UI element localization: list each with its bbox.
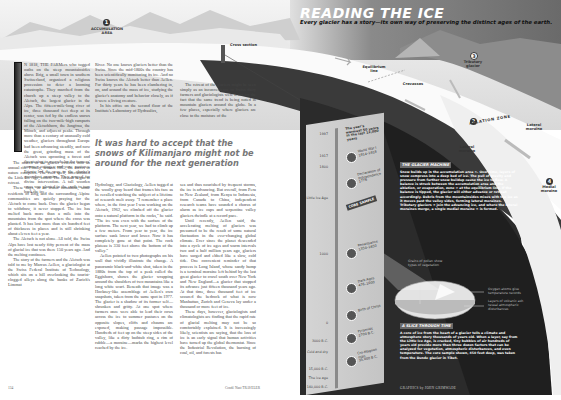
pull-quote: It was hard to accept that the snows of … (95, 138, 255, 168)
pyramid-icon (346, 333, 357, 344)
helmet-icon (346, 152, 357, 163)
article-column-2-top: River. No one knows glaciers better than… (95, 62, 173, 113)
skull-icon (346, 356, 357, 367)
glacier-machine-body: Snow builds up in the accumulation area … (400, 170, 518, 211)
article-column-2-bottom: Hydrology, and Glaciology, Aellen tugged… (95, 182, 173, 350)
tick-ice-age: The ice age (306, 376, 328, 380)
article-column-3-top: The retreat of the glaciers might be see… (180, 82, 256, 118)
label-number-3: 3 (470, 52, 478, 60)
graphics-credit: GRAPHICS by JOHN GRIMWADE (400, 386, 456, 390)
article-paragraph: The march to the glacier evolved into an… (8, 160, 90, 185)
page-number: 134 (8, 386, 13, 390)
article-paragraph: Until recently, Aellen said, the acceler… (180, 218, 256, 310)
cross-icon (346, 310, 357, 321)
lateral-moraine-label-left: Lateral moraine (455, 146, 479, 154)
feature-subtitle: Every glacier has a story—its own way of… (300, 19, 552, 25)
label-number-4: 4 (546, 178, 553, 185)
tick-cold-dry: Cold and dry (306, 350, 328, 354)
pollen-callout: Grains of pollen show types of vegetatio… (408, 260, 452, 268)
article-paragraph: These days, however, glaciologists and c… (180, 309, 256, 355)
cross-section-label: Cross section (230, 44, 262, 48)
tick-1800: 1800 (306, 165, 328, 169)
tick-1000: 1000 (306, 252, 328, 256)
article-paragraph: These days, in an ironic turnabout, some… (8, 185, 90, 236)
article-paragraph: River. No one knows glaciers better than… (95, 62, 173, 103)
article-column-1-cont: The march to the glacier evolved into an… (8, 160, 90, 287)
article-paragraph: The Aletsch is not alone. All told, the … (8, 236, 90, 256)
article-paragraph: In his office on the second floor of the… (95, 103, 173, 113)
tributary-glacier-label: Tributary glacier (462, 61, 484, 69)
accumulation-area-label: ACCUMULATION AREA (85, 28, 129, 36)
tick-3000bc: 3000 B.C. (306, 339, 328, 343)
tick-140000bc: 140,000 B.C. (306, 385, 328, 389)
slice-through-time-body: A core of ice from the heart of a glacie… (400, 331, 520, 360)
document-icon (346, 178, 357, 189)
article-paragraph: sea and thus nourished by frequent storm… (180, 182, 256, 218)
wheel-icon (346, 283, 357, 294)
article-paragraph: Aellen pointed to two photographs on his… (95, 253, 173, 350)
article-paragraph: The story of the farmers and the Aletsch… (8, 257, 90, 288)
tick-1997: 1997 (306, 132, 328, 136)
crevasses-label: Crevasses (398, 83, 428, 87)
tick-15000bc: 15,000 B.C. (306, 367, 328, 371)
tick-0: 0 (306, 321, 328, 325)
glacier-machine-title: THE GLACIER MACHINE (400, 162, 451, 168)
article-column-3-bottom: sea and thus nourished by frequent storm… (180, 182, 256, 355)
article-paragraph: The retreat of the glaciers might be see… (180, 82, 256, 118)
lateral-moraine-label-right: Lateral moraine (522, 124, 546, 132)
oxygen-callout: Oxygen atoms give temperature records (488, 288, 530, 296)
equilibrium-line-label: Equilibrium line (362, 66, 386, 74)
drop-cap-i (14, 62, 22, 152)
volcanic-callout: Layers of volcanic ash reveal atmospheri… (488, 300, 530, 312)
article-paragraph: Hydrology, and Glaciology, Aellen tugged… (95, 182, 173, 253)
medial-moraine-label: Medial moraine (538, 186, 560, 194)
renaissance-icon (346, 248, 357, 259)
core-axis (335, 128, 338, 388)
tick-little-ice-age: Little Ice Age (306, 196, 328, 200)
tick-1917: 1917 (306, 154, 328, 158)
label-number-1: 1 (103, 19, 110, 26)
slice-through-time-title: A SLICE THROUGH TIME (400, 323, 453, 329)
magazine-name: Condé Nast TRAVELER (225, 386, 260, 390)
